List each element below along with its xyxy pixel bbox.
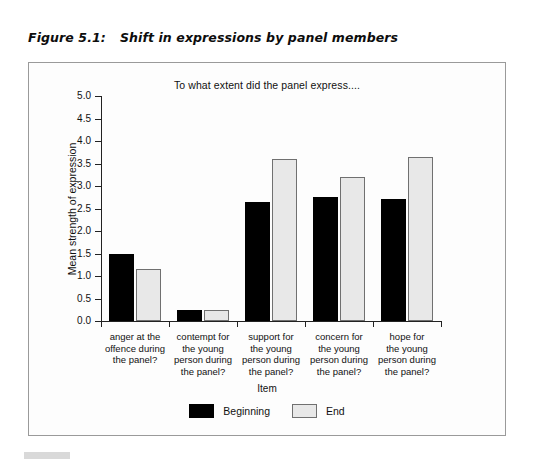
bar-beginning — [313, 197, 338, 321]
y-axis-tick-label: 5.0 — [61, 90, 91, 101]
figure-caption: Figure 5.1: Shift in expressions by pane… — [28, 30, 398, 45]
bar-beginning — [109, 254, 134, 321]
category-label-line: the young — [165, 343, 241, 355]
y-axis-tick-label: 3.5 — [61, 158, 91, 169]
legend-swatch-beginning — [189, 404, 214, 418]
category-label-line: anger at the — [97, 331, 173, 343]
chart-subtitle: To what extent did the panel express.... — [29, 79, 505, 91]
y-axis-tick-label: 1.5 — [61, 248, 91, 259]
y-axis-title-container: Mean strength of expression — [43, 123, 59, 303]
bar-beginning — [245, 202, 270, 321]
bar-end — [136, 269, 161, 321]
y-axis-tick-label: 0.5 — [61, 293, 91, 304]
x-axis-tick — [237, 322, 238, 327]
category-label-line: the panel? — [301, 366, 377, 378]
category-label-line: the panel? — [233, 366, 309, 378]
category-label-line: the panel? — [165, 366, 241, 378]
bar-beginning — [177, 310, 202, 321]
bar-end — [340, 177, 365, 321]
x-axis-category-label: support forthe youngperson duringthe pan… — [233, 331, 309, 377]
legend-swatch-end — [292, 404, 317, 418]
y-axis-tick-label: 2.0 — [61, 225, 91, 236]
legend-label: Beginning — [223, 405, 270, 417]
x-axis-category-label: concern forthe youngperson duringthe pan… — [301, 331, 377, 377]
y-axis-tick-label: 3.0 — [61, 180, 91, 191]
category-label-line: person during — [369, 354, 445, 366]
y-axis-tick-label: 2.5 — [61, 203, 91, 214]
y-axis-tick-label: 1.0 — [61, 270, 91, 281]
figure-title: Shift in expressions by panel members — [120, 30, 398, 45]
chart-legend: BeginningEnd — [29, 404, 505, 418]
category-label-line: person during — [301, 354, 377, 366]
category-label-line: the young — [233, 343, 309, 355]
category-label-line: offence during — [97, 343, 173, 355]
category-label-line: contempt for — [165, 331, 241, 343]
x-axis-tick — [441, 322, 442, 327]
category-label-line: support for — [233, 331, 309, 343]
category-label-line: person during — [165, 354, 241, 366]
x-axis-tick — [305, 322, 306, 327]
x-axis-tick — [373, 322, 374, 327]
y-axis-tick-label: 4.0 — [61, 135, 91, 146]
legend-label: End — [326, 405, 345, 417]
y-axis-tick-label: 4.5 — [61, 113, 91, 124]
category-label-line: the young — [301, 343, 377, 355]
category-label-line: person during — [233, 354, 309, 366]
x-axis-category-label: contempt forthe youngperson duringthe pa… — [165, 331, 241, 377]
legend-entry[interactable]: End — [292, 404, 345, 418]
plot-area — [101, 96, 441, 321]
x-axis-tick — [169, 322, 170, 327]
page-footer-mark — [24, 452, 70, 459]
x-axis-tick — [101, 322, 102, 327]
category-label-line: the young — [369, 343, 445, 355]
category-label-line: the panel? — [369, 366, 445, 378]
bar-end — [408, 157, 433, 321]
chart-frame: To what extent did the panel express....… — [28, 62, 506, 436]
category-label-line: the panel? — [97, 354, 173, 366]
bar-end — [272, 159, 297, 321]
x-axis-category-label: hope forthe youngperson duringthe panel? — [369, 331, 445, 377]
x-axis-category-label: anger at theoffence duringthe panel? — [97, 331, 173, 366]
legend-entry[interactable]: Beginning — [189, 404, 270, 418]
bar-beginning — [381, 199, 406, 321]
bar-end — [204, 310, 229, 321]
category-label-line: concern for — [301, 331, 377, 343]
category-label-line: hope for — [369, 331, 445, 343]
legend-title: Item — [29, 383, 505, 394]
x-axis-line — [101, 321, 442, 322]
figure-number: Figure 5.1: — [28, 30, 106, 45]
y-axis-tick-label: 0.0 — [61, 315, 91, 326]
